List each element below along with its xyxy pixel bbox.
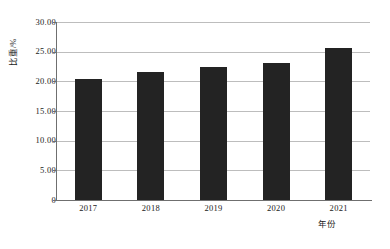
bar	[325, 48, 352, 200]
gridline	[57, 22, 370, 23]
bar-chart: 比重/% 30.0025.0020.0015.0010.005.000 2017…	[0, 0, 390, 249]
x-axis-line	[56, 200, 372, 201]
x-axis-tick-labels: 20172018201920202021	[57, 203, 370, 217]
y-axis-tick-label: 0	[18, 196, 56, 205]
y-axis-tickmark	[53, 81, 57, 82]
y-axis-tickmark	[53, 111, 57, 112]
y-axis-tick-label: 25.00	[18, 47, 56, 56]
x-axis-tick-label: 2018	[121, 203, 181, 214]
y-axis-tick-label: 5.00	[18, 166, 56, 175]
y-axis-tick-label: 10.00	[18, 136, 56, 145]
x-axis-tick-label: 2020	[246, 203, 306, 214]
y-axis-tickmark	[53, 22, 57, 23]
plot-area	[57, 22, 370, 200]
x-axis-tick-label: 2017	[58, 203, 118, 214]
y-axis-tickmark	[53, 141, 57, 142]
y-axis-tick-label: 30.00	[18, 18, 56, 27]
y-axis-tickmark	[53, 170, 57, 171]
y-axis-tickmark	[53, 200, 57, 201]
y-axis-tick-labels: 30.0025.0020.0015.0010.005.000	[18, 0, 56, 249]
y-axis-tickmark	[53, 52, 57, 53]
bar	[263, 63, 290, 200]
y-axis-tick-label: 20.00	[18, 77, 56, 86]
bar	[200, 67, 227, 200]
bar	[137, 72, 164, 200]
gridline	[57, 52, 370, 53]
x-axis-title: 年份	[318, 219, 336, 230]
bar	[75, 79, 102, 200]
x-axis-tick-label: 2021	[309, 203, 369, 214]
x-axis-tick-label: 2019	[184, 203, 244, 214]
y-axis-tick-label: 15.00	[18, 107, 56, 116]
